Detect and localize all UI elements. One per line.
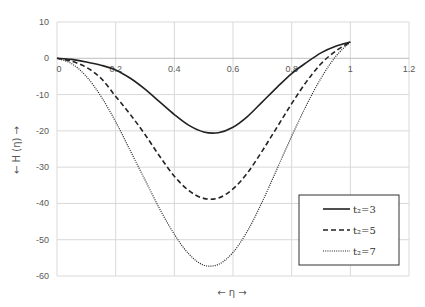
series-line-solid bbox=[57, 42, 350, 133]
y-tick-label: 0 bbox=[44, 53, 49, 63]
y-tick-label: -40 bbox=[36, 198, 49, 208]
x-tick-label: 0.6 bbox=[227, 64, 240, 74]
x-tick-label: 1 bbox=[348, 64, 353, 74]
x-tick-label: 0 bbox=[56, 64, 61, 74]
y-tick-label: -30 bbox=[36, 162, 49, 172]
x-axis-ticks: 0.20.40.60.811.20 bbox=[56, 64, 415, 74]
x-tick-label: 1.2 bbox=[403, 64, 416, 74]
legend-label: t₂=7 bbox=[353, 246, 376, 257]
y-tick-label: 10 bbox=[39, 17, 49, 27]
y-tick-label: -60 bbox=[36, 271, 49, 281]
legend-label: t₂=5 bbox=[353, 225, 376, 236]
legend: t₂=3t₂=5t₂=7 bbox=[299, 195, 399, 265]
x-axis-label: ← η → bbox=[217, 287, 246, 298]
y-tick-label: -50 bbox=[36, 235, 49, 245]
y-axis-ticks: 100-10-20-30-40-50-60 bbox=[36, 17, 49, 281]
y-tick-label: -20 bbox=[36, 126, 49, 136]
legend-label: t₂=3 bbox=[353, 204, 376, 215]
y-axis-label: ← H (η) → bbox=[11, 126, 22, 174]
x-tick-label: 0.4 bbox=[168, 64, 181, 74]
line-chart: 0.20.40.60.811.20 100-10-20-30-40-50-60 … bbox=[0, 0, 425, 307]
y-tick-label: -10 bbox=[36, 90, 49, 100]
